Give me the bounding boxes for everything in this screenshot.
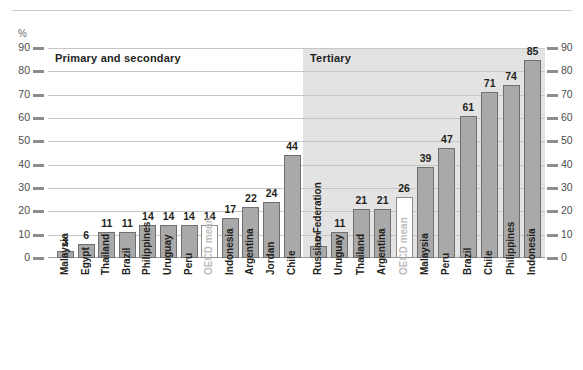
category-label-philippines: Philippines bbox=[141, 222, 152, 275]
bar-brazil bbox=[460, 116, 477, 258]
category-label-peru: Peru bbox=[183, 253, 194, 275]
axis-tick-left-0 bbox=[33, 257, 44, 260]
axis-label-left-90: 90 bbox=[4, 41, 30, 53]
category-label-peru: Peru bbox=[440, 253, 451, 275]
bar-value-egypt: 6 bbox=[71, 229, 101, 241]
category-label-uruguay: Uruguay bbox=[333, 234, 344, 275]
axis-tick-right-0 bbox=[547, 257, 558, 260]
bar-chile bbox=[284, 155, 301, 258]
category-label-malaysia: Malaysia bbox=[59, 233, 70, 275]
bar-value-argentina: 21 bbox=[368, 194, 398, 206]
axis-tick-right-80 bbox=[547, 70, 558, 73]
axis-label-left-30: 30 bbox=[4, 181, 30, 193]
panel-title-primary: Primary and secondary bbox=[55, 52, 181, 64]
axis-label-right-70: 70 bbox=[561, 88, 583, 100]
axis-label-right-20: 20 bbox=[561, 204, 583, 216]
axis-label-right-50: 50 bbox=[561, 134, 583, 146]
category-label-argentina: Argentina bbox=[244, 228, 255, 275]
gridline bbox=[48, 48, 545, 49]
axis-tick-left-30 bbox=[33, 187, 44, 190]
axis-label-left-10: 10 bbox=[4, 228, 30, 240]
category-label-oecd-mean: OECD mean bbox=[398, 217, 409, 275]
axis-tick-left-60 bbox=[33, 117, 44, 120]
axis-tick-left-50 bbox=[33, 140, 44, 143]
axis-label-right-60: 60 bbox=[561, 111, 583, 123]
axis-label-left-60: 60 bbox=[4, 111, 30, 123]
axis-tick-left-70 bbox=[33, 94, 44, 97]
gridline bbox=[48, 71, 545, 72]
category-label-chile: Chile bbox=[483, 251, 494, 275]
category-label-malaysia: Malaysia bbox=[419, 233, 430, 275]
axis-tick-right-70 bbox=[547, 94, 558, 97]
gridline bbox=[48, 95, 545, 96]
axis-tick-right-40 bbox=[547, 164, 558, 167]
axis-tick-right-30 bbox=[547, 187, 558, 190]
category-label-thailand: Thailand bbox=[355, 234, 366, 275]
axis-label-left-40: 40 bbox=[4, 158, 30, 170]
bar-value-uruguay: 11 bbox=[325, 217, 355, 229]
bar-value-indonesia: 85 bbox=[518, 45, 548, 57]
bar-value-brazil: 61 bbox=[453, 101, 483, 113]
axis-tick-left-90 bbox=[33, 47, 44, 50]
category-label-philippines: Philippines bbox=[505, 222, 516, 275]
axis-label-left-0: 0 bbox=[4, 251, 30, 263]
axis-tick-left-80 bbox=[33, 70, 44, 73]
axis-label-left-50: 50 bbox=[4, 134, 30, 146]
axis-tick-right-20 bbox=[547, 210, 558, 213]
axis-label-right-90: 90 bbox=[561, 41, 583, 53]
top-divider-rule bbox=[12, 10, 572, 11]
category-label-thailand: Thailand bbox=[100, 234, 111, 275]
bar-chile bbox=[481, 92, 498, 258]
axis-tick-left-20 bbox=[33, 210, 44, 213]
category-label-russian-federation: Russian Federation bbox=[312, 182, 323, 275]
axis-label-right-10: 10 bbox=[561, 228, 583, 240]
axis-tick-right-90 bbox=[547, 47, 558, 50]
bar-value-indonesia: 17 bbox=[215, 203, 245, 215]
bar-value-peru: 47 bbox=[432, 133, 462, 145]
bar-value-philippines: 74 bbox=[496, 70, 526, 82]
axis-tick-right-10 bbox=[547, 234, 558, 237]
bar-peru bbox=[438, 148, 455, 258]
axis-tick-left-10 bbox=[33, 234, 44, 237]
bar-value-jordan: 24 bbox=[257, 187, 287, 199]
category-label-egypt: Egypt bbox=[80, 247, 91, 275]
category-label-jordan: Jordan bbox=[265, 242, 276, 275]
chart-canvas: % 00101020203030404050506060707080809090… bbox=[0, 0, 583, 370]
bar-value-chile: 44 bbox=[277, 140, 307, 152]
bar-value-oecd-mean: 26 bbox=[389, 182, 419, 194]
axis-label-left-70: 70 bbox=[4, 88, 30, 100]
category-label-brazil: Brazil bbox=[462, 248, 473, 275]
panel-title-tertiary: Tertiary bbox=[310, 52, 351, 64]
axis-tick-right-60 bbox=[547, 117, 558, 120]
category-label-argentina: Argentina bbox=[376, 228, 387, 275]
category-label-indonesia: Indonesia bbox=[224, 228, 235, 275]
category-label-uruguay: Uruguay bbox=[162, 234, 173, 275]
category-label-chile: Chile bbox=[286, 251, 297, 275]
y-axis-unit-label: % bbox=[18, 28, 27, 39]
category-label-indonesia: Indonesia bbox=[526, 228, 537, 275]
axis-label-right-0: 0 bbox=[561, 251, 583, 263]
axis-label-left-80: 80 bbox=[4, 64, 30, 76]
category-label-brazil: Brazil bbox=[121, 248, 132, 275]
category-label-oecd-mean: OECD mean bbox=[203, 217, 214, 275]
axis-label-left-20: 20 bbox=[4, 204, 30, 216]
axis-label-right-80: 80 bbox=[561, 64, 583, 76]
axis-label-right-40: 40 bbox=[561, 158, 583, 170]
bar-value-malaysia: 39 bbox=[411, 152, 441, 164]
axis-tick-right-50 bbox=[547, 140, 558, 143]
axis-label-right-30: 30 bbox=[561, 181, 583, 193]
axis-tick-left-40 bbox=[33, 164, 44, 167]
